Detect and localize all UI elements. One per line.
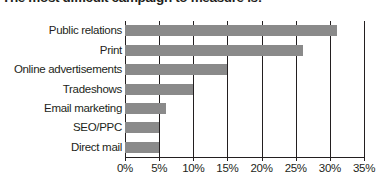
category-label: Email marketing (0, 103, 122, 114)
category-label: Public relations (0, 25, 122, 36)
bar-row (125, 45, 364, 56)
bar-chart: The most difficult campaign to measure i… (0, 0, 381, 185)
x-tick-20% (262, 157, 263, 161)
bar-row (125, 142, 364, 153)
category-label: Print (0, 45, 122, 56)
gridline-35% (364, 21, 365, 157)
bar-row (125, 84, 364, 95)
plot-area (125, 21, 364, 157)
x-axis-tick-labels: 0%5%10%15%20%25%30%35% (0, 162, 381, 180)
x-tick-15% (227, 157, 228, 161)
category-axis: Public relationsPrintOnline advertisemen… (0, 21, 122, 157)
bar-row (125, 122, 364, 133)
x-tick-10% (193, 157, 194, 161)
x-tick-35% (364, 157, 365, 161)
category-label: Tradeshows (0, 84, 122, 95)
chart-title: The most difficult campaign to measure i… (2, 0, 262, 5)
bar-row (125, 64, 364, 75)
category-label: SEO/PPC (0, 122, 122, 133)
category-label: Online advertisements (0, 64, 122, 75)
x-tick-label: 35% (344, 162, 381, 174)
bar (125, 25, 337, 36)
bar-row (125, 103, 364, 114)
bar (125, 84, 193, 95)
bar-row (125, 25, 364, 36)
bar (125, 45, 303, 56)
bar (125, 122, 159, 133)
x-tick-0% (125, 157, 126, 161)
category-label: Direct mail (0, 142, 122, 153)
x-tick-30% (330, 157, 331, 161)
bar (125, 142, 159, 153)
x-tick-25% (296, 157, 297, 161)
bar (125, 64, 227, 75)
x-tick-5% (159, 157, 160, 161)
bar (125, 103, 166, 114)
